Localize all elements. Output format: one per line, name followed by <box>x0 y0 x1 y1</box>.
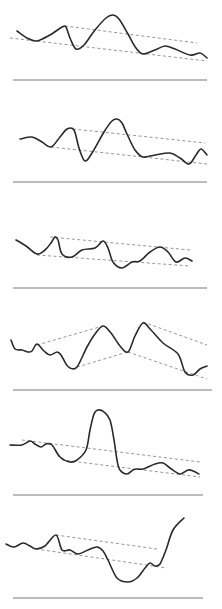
price-curve <box>16 237 192 268</box>
price-curve <box>6 518 184 582</box>
trendline-1 <box>50 237 190 250</box>
pattern-chart-1 <box>10 15 207 80</box>
price-curve <box>10 410 199 474</box>
trendline-1 <box>56 535 157 549</box>
pattern-chart-2 <box>13 119 207 182</box>
pattern-chart-3 <box>13 237 207 288</box>
price-curve <box>17 15 207 58</box>
trendline-3 <box>77 352 128 367</box>
trendline-2 <box>143 322 207 345</box>
trendline-1 <box>73 129 205 143</box>
price-curve <box>11 323 207 375</box>
trendline-4 <box>128 352 207 379</box>
pattern-figure <box>0 0 222 609</box>
pattern-chart-4 <box>11 322 212 390</box>
price-curve <box>20 119 207 164</box>
pattern-chart-6 <box>6 518 203 598</box>
pattern-chart-5 <box>10 410 203 495</box>
pattern-charts-canvas <box>0 0 222 609</box>
trendline-2 <box>37 255 190 266</box>
